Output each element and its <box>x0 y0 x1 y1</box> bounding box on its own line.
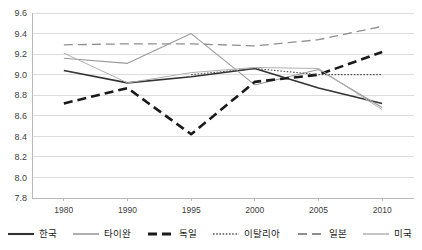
y-axis-tick-label: 9.0 <box>14 70 27 80</box>
y-axis-tick-label: 8.6 <box>14 111 27 121</box>
chart-legend: 한국타이완독일이탈리아일본미국 <box>8 228 412 239</box>
y-axis-tick-label: 9.4 <box>14 29 27 39</box>
x-axis-tick-label: 1995 <box>182 205 201 215</box>
legend-item-label: 미국 <box>394 228 412 239</box>
x-axis-tick-label: 1980 <box>54 205 73 215</box>
x-axis-tick-labels: 198019901995200020052010 <box>54 205 392 215</box>
x-axis-tick-label: 2005 <box>309 205 328 215</box>
legend-item-label: 이탈리아 <box>244 228 280 239</box>
legend-item-label: 타이완 <box>104 228 131 239</box>
legend-item-label: 한국 <box>39 228 57 239</box>
y-axis-tick-label: 7.8 <box>14 193 27 203</box>
x-axis-tick-label: 2000 <box>245 205 264 215</box>
legend-item-label: 일본 <box>329 228 347 239</box>
y-axis-tick-label: 8.4 <box>14 132 27 142</box>
y-axis-tick-label: 8.0 <box>14 173 27 183</box>
y-axis-tick-label: 9.2 <box>14 49 27 59</box>
legend-item-label: 독일 <box>179 228 197 239</box>
y-axis-tick-label: 9.6 <box>14 8 27 18</box>
chart-canvas: 9.69.49.29.08.88.68.48.28.07.8 198019901… <box>0 0 422 250</box>
y-axis-tick-label: 8.8 <box>14 90 27 100</box>
y-axis-tick-labels: 9.69.49.29.08.88.68.48.28.07.8 <box>14 8 27 203</box>
x-axis-tick-label: 2010 <box>373 205 392 215</box>
x-axis-tick-label: 1990 <box>118 205 137 215</box>
y-axis-tick-label: 8.2 <box>14 152 27 162</box>
line-chart: 9.69.49.29.08.88.68.48.28.07.8 198019901… <box>0 0 422 250</box>
plot-background <box>32 13 414 198</box>
